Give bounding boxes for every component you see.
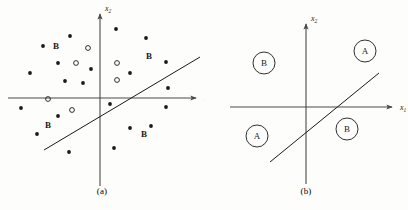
- filled-data-point: [164, 105, 168, 109]
- filled-data-point: [149, 124, 153, 128]
- filled-data-point: [28, 71, 32, 75]
- panel-b-regions: x1x2BAAB (b): [204, 0, 408, 210]
- region-label-a-upper-right: A: [354, 40, 376, 62]
- panel-a-caption: (a): [0, 186, 204, 196]
- decision-boundary: [44, 57, 200, 150]
- open-data-point: [46, 97, 51, 102]
- axes-group: [8, 14, 196, 186]
- y-axis-label-subscript: 2: [315, 18, 318, 24]
- open-data-point: [74, 61, 79, 66]
- open-data-point: [115, 61, 120, 66]
- filled-data-point: [114, 27, 118, 31]
- open-data-point: [70, 108, 75, 113]
- filled-data-point: [81, 81, 85, 85]
- panel-b-caption: (b): [204, 186, 408, 196]
- open-points-group: [46, 46, 120, 113]
- region-label-text: B: [344, 124, 350, 134]
- region-label-text: A: [362, 46, 369, 56]
- open-data-point: [86, 46, 91, 51]
- filled-data-point: [166, 86, 170, 90]
- class-label-b: B: [141, 129, 147, 139]
- region-label-text: B: [261, 58, 267, 68]
- filled-data-point: [68, 34, 72, 38]
- panel-b-canvas: x1x2BAAB: [204, 0, 408, 210]
- filled-data-point: [56, 61, 60, 65]
- filled-points-group: [19, 27, 170, 154]
- class-label-b: B: [45, 120, 51, 130]
- panel-a-canvas: x1x2BBBB: [0, 0, 204, 210]
- class-label-b: B: [53, 41, 59, 51]
- class-label-b: B: [146, 51, 152, 61]
- x-axis-label-subscript: 1: [404, 107, 407, 113]
- y-axis-label: x2: [104, 4, 112, 14]
- filled-data-point: [164, 60, 168, 64]
- x-axis-label: x1: [399, 103, 407, 113]
- filled-data-point: [144, 36, 148, 40]
- filled-data-point: [89, 67, 93, 71]
- filled-data-point: [108, 102, 112, 106]
- region-label-b-lower-right: B: [336, 118, 358, 140]
- y-axis-label-subscript: 2: [109, 8, 112, 14]
- region-label-a-lower-left: A: [246, 125, 268, 147]
- filled-data-point: [112, 146, 116, 150]
- filled-data-point: [128, 71, 132, 75]
- filled-data-point: [63, 79, 67, 83]
- region-label-b-upper-left: B: [253, 52, 275, 74]
- panel-a-scatter: x1x2BBBB (a): [0, 0, 204, 210]
- filled-data-point: [128, 126, 132, 130]
- filled-data-point: [41, 44, 45, 48]
- open-data-point: [115, 78, 120, 83]
- filled-data-point: [67, 150, 71, 154]
- decision-boundary: [270, 73, 379, 162]
- figure-root: x1x2BBBB (a) x1x2BAAB (b): [0, 0, 408, 210]
- y-axis-label: x2: [310, 14, 318, 24]
- filled-data-point: [19, 106, 23, 110]
- region-label-text: A: [254, 131, 261, 141]
- filled-data-point: [35, 132, 39, 136]
- filled-data-point: [56, 114, 60, 118]
